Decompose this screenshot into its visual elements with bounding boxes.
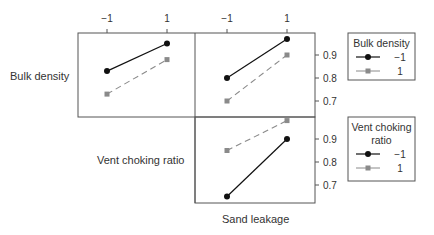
panel-bulk-density-vs-sand-leakage: [224, 36, 290, 104]
series-line-pos: [107, 60, 167, 95]
interaction-plot-matrix: −11−11 0.90.80.70.90.80.7 Bulk density V…: [0, 0, 434, 235]
square-marker: [165, 57, 170, 62]
legend-entry-label: −1: [394, 149, 406, 160]
right-tick-label: 0.9: [323, 134, 337, 145]
panel-bulk-density-vs-vent-choking: [104, 41, 170, 97]
series-line-pos: [227, 121, 287, 151]
legend-entry-label: 1: [397, 163, 403, 174]
legend-entry-label: 1: [397, 66, 403, 77]
circle-marker: [284, 136, 290, 142]
top-axis: −11−11: [101, 13, 290, 33]
legend-title: Vent choking: [351, 121, 411, 133]
series-line-neg: [227, 39, 287, 78]
top-tick-label: 1: [284, 13, 290, 24]
right-tick-label: 0.7: [323, 180, 337, 191]
series-line-neg: [227, 139, 287, 197]
right-tick-label: 0.9: [323, 50, 337, 61]
top-tick-label: −1: [101, 13, 113, 24]
legend-circle-marker: [365, 151, 371, 157]
legend-square-marker: [366, 69, 371, 74]
legend-vent-choking-ratio: Vent chokingratio−11: [348, 117, 415, 181]
row-label-vent-choking-ratio: Vent choking ratio: [97, 154, 184, 166]
row-label-bulk-density: Bulk density: [10, 70, 70, 82]
legend-circle-marker: [365, 54, 371, 60]
top-tick-label: −1: [221, 13, 233, 24]
circle-marker: [104, 68, 110, 74]
circle-marker: [224, 194, 230, 200]
legend-title: Bulk density: [353, 37, 410, 49]
legend-entry-label: −1: [394, 52, 406, 63]
square-marker: [225, 99, 230, 104]
right-tick-label: 0.7: [323, 96, 337, 107]
legend-square-marker: [366, 166, 371, 171]
circle-marker: [164, 41, 170, 47]
square-marker: [225, 148, 230, 153]
square-marker: [285, 118, 290, 123]
top-tick-label: 1: [164, 13, 170, 24]
legend-bulk-density: Bulk density−11: [348, 33, 415, 80]
series-line-neg: [107, 44, 167, 72]
right-tick-label: 0.8: [323, 73, 337, 84]
legend-title: ratio: [371, 134, 392, 146]
panel-vent-choking-vs-sand-leakage: [224, 118, 290, 199]
right-tick-label: 0.8: [323, 157, 337, 168]
circle-marker: [284, 36, 290, 42]
legends: Bulk density−11Vent chokingratio−11: [348, 33, 415, 181]
right-axes: 0.90.80.70.90.80.7: [315, 50, 337, 191]
panels: [104, 36, 290, 200]
panel-frames: [78, 33, 315, 203]
square-marker: [105, 92, 110, 97]
bottom-panel-frame: [195, 117, 315, 203]
top-row-frame: [78, 33, 315, 117]
series-line-pos: [227, 55, 287, 101]
circle-marker: [224, 75, 230, 81]
column-label-sand-leakage: Sand leakage: [222, 213, 289, 225]
square-marker: [285, 53, 290, 58]
